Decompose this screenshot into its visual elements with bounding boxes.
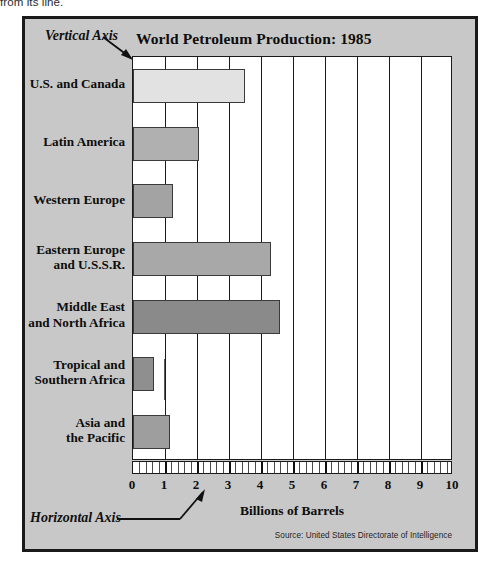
x-minor-tick <box>312 462 313 473</box>
x-minor-tick <box>184 462 185 473</box>
x-major-tick <box>165 462 167 473</box>
x-minor-tick <box>370 462 371 473</box>
bar-2[interactable] <box>133 127 199 161</box>
x-major-tick <box>229 462 231 473</box>
x-tick-label-0: 0 <box>120 477 144 493</box>
category-label-4: Eastern Europeand U.S.S.R. <box>6 242 132 273</box>
source-note: Source: United States Directorate of Int… <box>160 531 452 540</box>
x-tick-label-7: 7 <box>344 477 368 493</box>
plot-area <box>132 56 452 460</box>
bar-5[interactable] <box>133 300 280 334</box>
x-minor-tick <box>248 462 249 473</box>
x-axis-title: Billions of Barrels <box>132 503 452 519</box>
category-label-2: Latin America <box>6 134 132 150</box>
x-minor-tick <box>223 462 224 473</box>
bar-row <box>133 69 453 103</box>
bar-row <box>133 300 453 334</box>
x-minor-tick <box>216 462 217 473</box>
category-label-1: U.S. and Canada <box>6 76 132 92</box>
x-minor-tick <box>178 462 179 473</box>
bar-row <box>133 127 453 161</box>
x-minor-tick <box>331 462 332 473</box>
category-label-line: Eastern Europe <box>6 242 125 258</box>
x-major-tick <box>357 462 359 473</box>
bar-6[interactable] <box>133 357 154 391</box>
category-label-line: Latin America <box>6 134 125 150</box>
annotation-horizontal-axis: Horizontal Axis <box>30 510 121 526</box>
x-minor-tick <box>408 462 409 473</box>
x-major-tick <box>325 462 327 473</box>
category-label-line: Southern Africa <box>6 372 125 388</box>
x-major-tick <box>293 462 295 473</box>
bar-7[interactable] <box>133 415 170 449</box>
gridline-stub <box>164 359 165 401</box>
x-minor-tick <box>267 462 268 473</box>
x-tick-label-3: 3 <box>216 477 240 493</box>
category-label-3: Western Europe <box>6 192 132 208</box>
x-minor-tick <box>152 462 153 473</box>
x-minor-tick <box>383 462 384 473</box>
x-minor-tick <box>159 462 160 473</box>
x-major-tick <box>197 462 199 473</box>
category-label-line: U.S. and Canada <box>6 76 125 92</box>
x-minor-tick <box>299 462 300 473</box>
x-axis-ruler-band <box>132 461 452 474</box>
x-tick-label-8: 8 <box>376 477 400 493</box>
x-minor-tick <box>319 462 320 473</box>
category-label-line: Asia and <box>6 415 125 431</box>
x-tick-label-1: 1 <box>152 477 176 493</box>
x-minor-tick <box>344 462 345 473</box>
x-minor-tick <box>235 462 236 473</box>
x-minor-tick <box>338 462 339 473</box>
x-minor-tick <box>191 462 192 473</box>
category-label-5: Middle Eastand North Africa <box>6 299 132 330</box>
x-minor-tick <box>287 462 288 473</box>
chart-title: World Petroleum Production: 1985 <box>136 30 436 48</box>
category-label-7: Asia andthe Pacific <box>6 415 132 446</box>
x-major-tick <box>261 462 263 473</box>
x-minor-tick <box>306 462 307 473</box>
category-label-line: Western Europe <box>6 192 125 208</box>
x-minor-tick <box>255 462 256 473</box>
x-minor-tick <box>146 462 147 473</box>
bar-row <box>133 184 453 218</box>
bar-1[interactable] <box>133 69 245 103</box>
x-minor-tick <box>210 462 211 473</box>
category-label-6: Tropical andSouthern Africa <box>6 357 132 388</box>
bar-row <box>133 357 453 391</box>
x-minor-tick <box>242 462 243 473</box>
x-major-tick <box>389 462 391 473</box>
x-minor-tick <box>415 462 416 473</box>
x-tick-label-4: 4 <box>248 477 272 493</box>
x-tick-label-2: 2 <box>184 477 208 493</box>
x-minor-tick <box>139 462 140 473</box>
x-minor-tick <box>171 462 172 473</box>
x-minor-tick <box>274 462 275 473</box>
bar-row <box>133 242 453 276</box>
x-minor-tick <box>427 462 428 473</box>
category-label-line: Middle East <box>6 299 125 315</box>
x-minor-tick <box>280 462 281 473</box>
x-minor-tick <box>203 462 204 473</box>
category-label-line: Tropical and <box>6 357 125 373</box>
x-tick-label-9: 9 <box>408 477 432 493</box>
x-minor-tick <box>363 462 364 473</box>
x-tick-label-6: 6 <box>312 477 336 493</box>
category-label-line: and North Africa <box>6 315 125 331</box>
x-minor-tick <box>447 462 448 473</box>
x-tick-label-5: 5 <box>280 477 304 493</box>
bar-4[interactable] <box>133 242 271 276</box>
x-minor-tick <box>351 462 352 473</box>
category-label-line: and U.S.S.R. <box>6 257 125 273</box>
x-tick-label-10: 10 <box>440 477 464 493</box>
x-minor-tick <box>434 462 435 473</box>
category-label-line: the Pacific <box>6 430 125 446</box>
x-minor-tick <box>440 462 441 473</box>
bar-3[interactable] <box>133 184 173 218</box>
x-minor-tick <box>376 462 377 473</box>
page-scrap-text: from its line. <box>0 0 200 10</box>
annotation-vertical-axis: Vertical Axis <box>45 28 118 44</box>
bar-row <box>133 415 453 449</box>
x-minor-tick <box>395 462 396 473</box>
x-major-tick <box>421 462 423 473</box>
